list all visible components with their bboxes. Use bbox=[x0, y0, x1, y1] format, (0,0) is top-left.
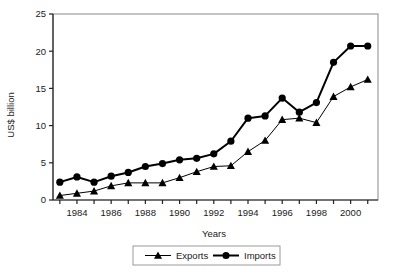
legend-label: Exports bbox=[176, 250, 208, 261]
data-point-circle bbox=[279, 94, 286, 101]
line-chart: 0510152025 19841986198819901992199419961… bbox=[0, 0, 399, 275]
x-axis-title: Years bbox=[202, 228, 226, 239]
chart-canvas: 0510152025 19841986198819901992199419961… bbox=[0, 0, 399, 275]
data-point-circle bbox=[347, 42, 354, 49]
chart-legend[interactable]: ExportsImports bbox=[133, 246, 280, 265]
y-tick-label: 20 bbox=[35, 46, 46, 57]
data-point-circle bbox=[313, 99, 320, 106]
data-point-circle bbox=[262, 112, 269, 119]
x-tick-label: 1992 bbox=[203, 207, 224, 218]
x-tick-label: 1986 bbox=[101, 207, 122, 218]
data-point-circle bbox=[210, 150, 217, 157]
data-point-circle bbox=[142, 163, 149, 170]
y-tick-label: 25 bbox=[35, 8, 46, 19]
x-tick-label: 1994 bbox=[237, 207, 258, 218]
data-point-circle bbox=[364, 42, 371, 49]
data-point-circle bbox=[159, 160, 166, 167]
y-tick-label: 5 bbox=[41, 157, 46, 168]
data-point-circle bbox=[108, 173, 115, 180]
data-point-circle bbox=[56, 179, 63, 186]
y-tick-label: 15 bbox=[35, 83, 46, 94]
x-tick-label: 1996 bbox=[272, 207, 293, 218]
data-point-circle bbox=[227, 138, 234, 145]
data-point-circle bbox=[222, 252, 229, 259]
y-axis-title: US$ billion bbox=[5, 92, 16, 137]
y-tick-label: 0 bbox=[41, 194, 46, 205]
legend-label: Imports bbox=[244, 250, 276, 261]
x-tick-label: 1990 bbox=[169, 207, 190, 218]
data-point-circle bbox=[90, 179, 97, 186]
x-tick-label: 1988 bbox=[135, 207, 156, 218]
chart-background bbox=[0, 0, 399, 275]
data-point-circle bbox=[296, 109, 303, 116]
data-point-circle bbox=[244, 115, 251, 122]
data-point-circle bbox=[176, 156, 183, 163]
data-point-circle bbox=[125, 169, 132, 176]
x-tick-label: 2000 bbox=[340, 207, 361, 218]
y-tick-label: 10 bbox=[35, 120, 46, 131]
data-point-circle bbox=[193, 155, 200, 162]
data-point-circle bbox=[73, 173, 80, 180]
data-point-circle bbox=[330, 59, 337, 66]
x-tick-label: 1984 bbox=[66, 207, 87, 218]
x-tick-label: 1998 bbox=[306, 207, 327, 218]
